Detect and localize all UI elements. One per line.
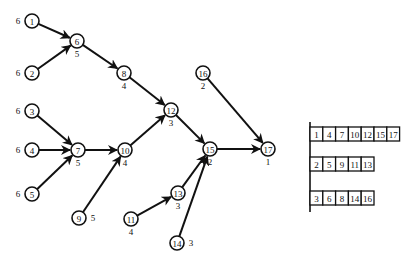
node-8: 84 xyxy=(117,66,131,91)
node-id-label: 16 xyxy=(199,69,209,79)
node-weight-label: 3 xyxy=(189,238,194,248)
table-cell-value: 4 xyxy=(327,130,332,140)
table-cell-value: 2 xyxy=(314,160,319,170)
edge-3-to-7 xyxy=(37,116,72,145)
node-weight-label: 2 xyxy=(208,157,213,167)
node-weight-label: 5 xyxy=(75,49,80,59)
edge-10-to-12 xyxy=(130,115,165,145)
node-weight-label: 1 xyxy=(266,157,271,167)
table-cell: 1 xyxy=(310,127,323,141)
table-cell: 17 xyxy=(387,127,400,141)
node-3: 36 xyxy=(16,104,39,118)
table-cell-value: 17 xyxy=(389,130,399,140)
table-cell: 15 xyxy=(374,127,387,141)
node-id-label: 6 xyxy=(75,37,80,47)
node-id-label: 3 xyxy=(30,107,35,117)
node-id-label: 5 xyxy=(30,190,35,200)
node-weight-label: 6 xyxy=(16,189,21,199)
table-cell-value: 16 xyxy=(363,194,373,204)
node-17: 171 xyxy=(261,142,275,167)
node-weight-label: 5 xyxy=(91,213,96,223)
partition-table: 1471012151725911133681416 xyxy=(310,122,400,212)
edges-layer xyxy=(37,24,263,237)
node-id-label: 13 xyxy=(174,189,184,199)
node-weight-label: 3 xyxy=(169,118,174,128)
table-cell: 4 xyxy=(323,127,336,141)
edge-16-to-17 xyxy=(208,78,263,143)
node-weight-label: 2 xyxy=(201,81,206,91)
node-id-label: 15 xyxy=(206,145,216,155)
table-cell: 13 xyxy=(361,157,374,171)
node-id-label: 17 xyxy=(264,145,274,155)
table-cell: 7 xyxy=(336,127,349,141)
table-cell-value: 12 xyxy=(363,130,372,140)
table-cell: 10 xyxy=(348,127,361,141)
table-cell: 6 xyxy=(323,191,336,205)
node-2: 26 xyxy=(16,66,39,80)
node-12: 123 xyxy=(164,103,178,128)
node-id-label: 14 xyxy=(173,239,183,249)
node-id-label: 11 xyxy=(127,215,136,225)
node-id-label: 7 xyxy=(76,146,81,156)
table-cell-value: 5 xyxy=(327,160,332,170)
table-row-1: 14710121517 xyxy=(310,127,400,141)
node-weight-label: 6 xyxy=(16,68,21,78)
node-6: 65 xyxy=(70,34,84,59)
table-cell: 11 xyxy=(348,157,361,171)
node-11: 114 xyxy=(124,212,138,237)
node-id-label: 1 xyxy=(30,17,35,27)
edge-5-to-7 xyxy=(37,156,72,190)
table-cell-value: 3 xyxy=(314,194,319,204)
node-9: 95 xyxy=(72,211,96,225)
node-weight-label: 5 xyxy=(76,158,81,168)
node-id-label: 4 xyxy=(30,146,35,156)
table-row-3: 3681416 xyxy=(310,191,374,205)
table-cell: 8 xyxy=(336,191,349,205)
node-weight-label: 6 xyxy=(16,106,21,116)
node-7: 75 xyxy=(71,143,85,168)
node-id-label: 8 xyxy=(122,69,127,79)
node-id-label: 12 xyxy=(167,106,176,116)
table-cell: 16 xyxy=(361,191,374,205)
node-weight-label: 4 xyxy=(129,227,134,237)
table-cell-value: 11 xyxy=(350,160,359,170)
node-10: 104 xyxy=(118,143,132,168)
table-cell-value: 8 xyxy=(340,194,345,204)
node-weight-label: 6 xyxy=(16,16,21,26)
node-14: 143 xyxy=(170,236,194,250)
node-id-label: 9 xyxy=(77,214,82,224)
table-cell-value: 14 xyxy=(350,194,360,204)
table-cell-value: 7 xyxy=(340,130,345,140)
node-weight-label: 4 xyxy=(123,158,128,168)
table-cell: 2 xyxy=(310,157,323,171)
edge-1-to-6 xyxy=(38,24,69,38)
table-cell: 5 xyxy=(323,157,336,171)
edge-6-to-8 xyxy=(83,45,118,69)
table-cell-value: 1 xyxy=(314,130,319,140)
task-graph-diagram: 1626364656657584951041141231331431521621… xyxy=(0,0,417,266)
edge-9-to-10 xyxy=(83,157,121,213)
node-weight-label: 4 xyxy=(122,81,127,91)
table-cell-value: 10 xyxy=(350,130,360,140)
edge-11-to-13 xyxy=(137,197,171,216)
table-cell-value: 13 xyxy=(363,160,373,170)
table-cell: 12 xyxy=(361,127,374,141)
table-cell: 9 xyxy=(336,157,349,171)
table-cell: 3 xyxy=(310,191,323,205)
table-row-2: 2591113 xyxy=(310,157,374,171)
table-cell-value: 6 xyxy=(327,194,332,204)
node-1: 16 xyxy=(16,14,39,28)
edge-2-to-6 xyxy=(38,46,71,69)
table-cell-value: 15 xyxy=(376,130,386,140)
node-id-label: 10 xyxy=(121,146,131,156)
node-weight-label: 6 xyxy=(16,145,21,155)
edge-8-to-12 xyxy=(130,77,165,105)
node-13: 133 xyxy=(171,186,185,211)
table-cell-value: 9 xyxy=(340,160,345,170)
node-16: 162 xyxy=(196,66,210,91)
edge-12-to-15 xyxy=(176,115,204,143)
node-4: 46 xyxy=(16,143,39,157)
node-5: 56 xyxy=(16,187,39,201)
node-weight-label: 3 xyxy=(176,201,181,211)
node-id-label: 2 xyxy=(30,69,35,79)
